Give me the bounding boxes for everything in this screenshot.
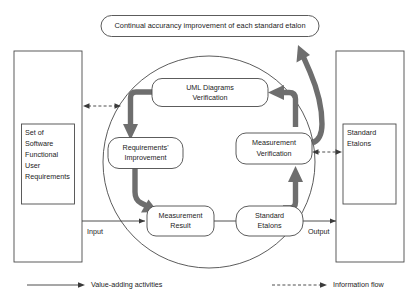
legend-dashed-arrowhead [320, 282, 327, 288]
info-flow-right-arrowhead-start [312, 149, 319, 155]
diagram-svg: Continual accurancy improvement of each … [0, 0, 417, 304]
banner-group: Continual accurancy improvement of each … [101, 16, 319, 37]
node-requirements-improvement-label-line-0: Requirements' [122, 143, 169, 152]
cycle-arrow-4-head [268, 85, 284, 100]
left-box-line-1: Software [25, 139, 53, 148]
node-standard-etalons-label-line-0: Standard [255, 211, 284, 220]
node-requirements-improvement[interactable]: Requirements' Improvement [108, 138, 183, 169]
left-box-line-2: Functional [25, 150, 59, 159]
legend-item-information-flow: Information flow [272, 280, 385, 289]
input-arrowhead [139, 218, 145, 223]
node-standard-etalons[interactable]: Standard Etalons [236, 206, 303, 236]
node-uml-label-line-0: UML Diagrams [186, 83, 234, 92]
banner-label: Continual accurancy improvement of each … [114, 21, 305, 30]
legend-label-value-adding-activities: Value-adding activities [91, 280, 163, 289]
left-box-line-0: Set of [25, 128, 44, 137]
node-measurement-verification-label-line-0: Measurement [252, 138, 296, 147]
node-measurement-verification-label-line-1: Verification [256, 149, 291, 158]
node-uml-diagrams-verification[interactable]: UML Diagrams Verification [152, 79, 268, 107]
input-label: Input [87, 227, 103, 236]
output-arrowhead [330, 218, 336, 223]
left-outer-box-group: Set of Software Functional User Requirem… [14, 51, 82, 262]
node-uml-label-line-1: Verification [192, 93, 227, 102]
legend-label-information-flow: Information flow [333, 280, 385, 289]
node-measurement-result-label-line-1: Result [170, 221, 190, 230]
diagram-canvas: Continual accurancy improvement of each … [0, 0, 417, 304]
node-measurement-result[interactable]: Measurement Result [147, 206, 214, 236]
left-box-line-4: Requirements [25, 172, 70, 181]
cycle-arrow-3-head [288, 166, 303, 182]
cycle-arrow-etalons-to-verification [283, 166, 303, 208]
right-box-line-1: Etalons [347, 139, 371, 148]
information-flow-left [83, 103, 121, 109]
legend-item-value-adding-activities: Value-adding activities [27, 280, 163, 289]
node-standard-etalons-label-line-1: Etalons [258, 221, 282, 230]
cycle-arrow-uml-to-requirements [123, 92, 152, 140]
legend-solid-arrowhead [78, 282, 85, 288]
info-flow-left-arrowhead-start [83, 103, 90, 109]
node-measurement-verification[interactable]: Measurement Verification [236, 133, 312, 164]
cycle-arrow-verification-to-uml [268, 85, 296, 127]
right-outer-box-group: Standard Etalons [336, 51, 404, 262]
right-box-line-0: Standard [347, 128, 376, 137]
output-label: Output [308, 227, 330, 236]
left-box-line-3: User [25, 161, 41, 170]
node-measurement-result-label-line-0: Measurement [159, 211, 203, 220]
node-requirements-improvement-label-line-1: Improvement [125, 153, 167, 162]
